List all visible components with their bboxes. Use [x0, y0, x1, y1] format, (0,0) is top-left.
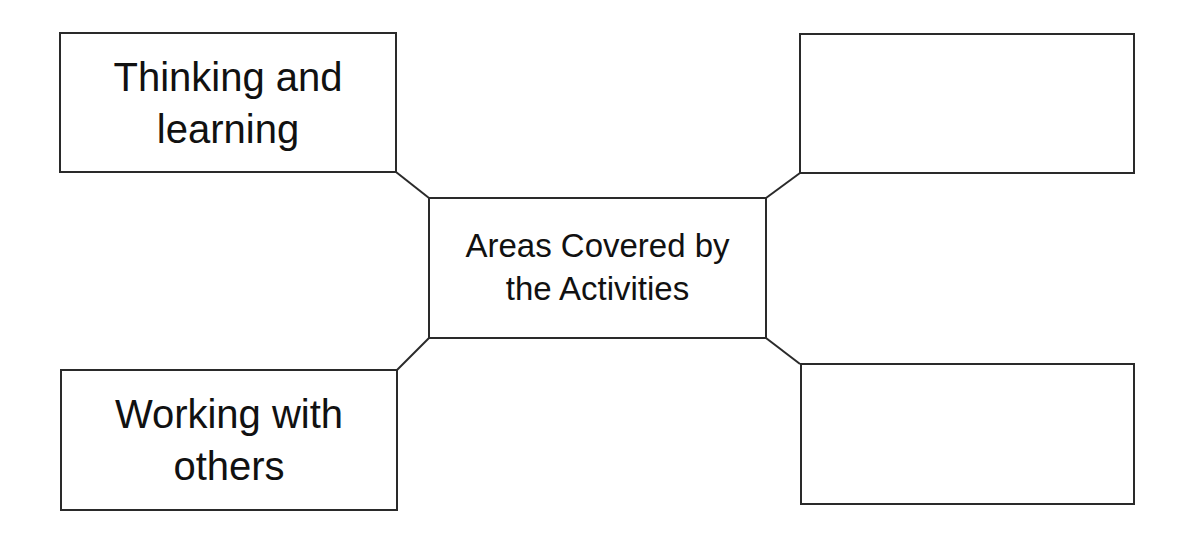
center-text-line: the Activities	[465, 268, 729, 311]
center-node: Areas Covered by the Activities	[428, 197, 767, 339]
node-text-line: Thinking and	[113, 51, 342, 103]
node-bottom-right	[800, 363, 1135, 505]
connector-bottom-left	[397, 338, 429, 370]
connector-top-right	[766, 173, 800, 198]
node-text-line: learning	[113, 103, 342, 155]
node-top-right	[799, 33, 1135, 174]
node-text-line: others	[115, 440, 343, 492]
node-bottom-left: Working with others	[60, 369, 398, 511]
node-top-left: Thinking and learning	[59, 32, 397, 173]
connector-bottom-right	[766, 338, 800, 364]
node-text-line: Working with	[115, 388, 343, 440]
connector-top-left	[396, 172, 429, 198]
center-text-line: Areas Covered by	[465, 225, 729, 268]
